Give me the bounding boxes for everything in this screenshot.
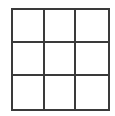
grid-cell-r1-c2[interactable] — [45, 10, 77, 43]
grid-cell-r2-c1[interactable] — [13, 43, 45, 76]
grid-cell-r2-c3[interactable] — [76, 43, 108, 76]
grid-cell-r3-c3[interactable] — [76, 76, 108, 109]
grid-cell-r1-c1[interactable] — [13, 10, 45, 43]
grid-cell-r2-c2[interactable] — [45, 43, 77, 76]
grid-cell-r3-c1[interactable] — [13, 76, 45, 109]
grid-cell-r1-c3[interactable] — [76, 10, 108, 43]
grid-cell-r3-c2[interactable] — [45, 76, 77, 109]
grid-3x3 — [11, 8, 110, 111]
